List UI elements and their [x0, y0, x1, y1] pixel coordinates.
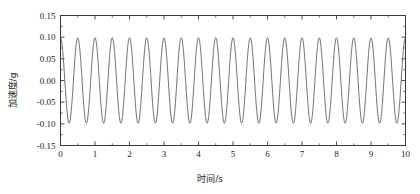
y-axis-label: 加速度/g — [2, 50, 24, 130]
x-tick-label: 5 — [231, 149, 236, 159]
data-series — [61, 38, 406, 123]
y-tick-label: -0.15 — [37, 141, 56, 151]
acceleration-time-chart: 加速度/g 012345678910-0.15-0.10-0.050.000.0… — [0, 0, 420, 194]
x-tick-label: 7 — [300, 149, 305, 159]
y-tick-label: 0.00 — [40, 76, 56, 86]
plot-area: 012345678910-0.15-0.10-0.050.000.050.100… — [0, 0, 420, 194]
x-tick-label: 6 — [265, 149, 270, 159]
tick-marks — [61, 16, 406, 146]
x-tick-label: 3 — [162, 149, 167, 159]
y-axis-label-text: 加速度/g — [7, 72, 20, 108]
axes-frame — [61, 16, 406, 146]
x-tick-label: 9 — [369, 149, 374, 159]
y-tick-label: -0.10 — [37, 119, 56, 129]
y-tick-label: 0.15 — [40, 11, 56, 21]
x-tick-label: 4 — [196, 149, 201, 159]
x-axis-label: 时间/s — [0, 168, 420, 186]
tick-labels: 012345678910-0.15-0.10-0.050.000.050.100… — [37, 11, 411, 159]
y-tick-label: -0.05 — [37, 97, 56, 107]
x-tick-label: 8 — [334, 149, 339, 159]
x-tick-label: 1 — [93, 149, 98, 159]
x-tick-label: 2 — [127, 149, 132, 159]
y-tick-label: 0.05 — [40, 54, 56, 64]
x-tick-label: 0 — [58, 149, 63, 159]
x-axis-label-text: 时间/s — [197, 174, 223, 184]
series-line — [61, 38, 406, 123]
y-tick-label: 0.10 — [40, 32, 56, 42]
x-tick-label: 10 — [401, 149, 411, 159]
